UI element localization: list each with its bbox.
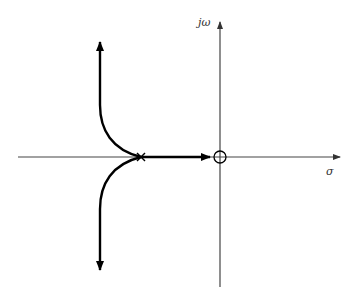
imaginary-axis-label: jω <box>195 16 210 29</box>
real-axis-label: σ <box>326 165 334 178</box>
upper-locus-branch <box>100 42 141 157</box>
lower-locus-branch <box>100 157 141 270</box>
root-locus-diagram: jω σ <box>0 0 355 302</box>
